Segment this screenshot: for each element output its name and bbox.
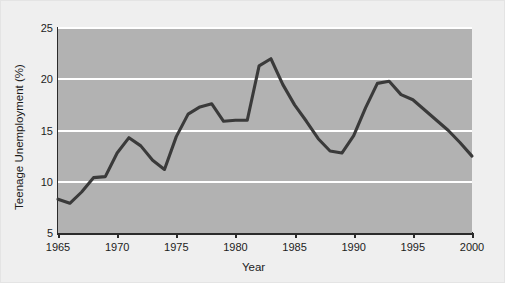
x-tick-mark-1980	[235, 233, 237, 238]
x-tick-mark-1990	[354, 233, 356, 238]
x-tick-label-1970: 1970	[105, 241, 129, 253]
x-tick-label-1975: 1975	[164, 241, 188, 253]
x-tick-label-1980: 1980	[223, 241, 247, 253]
y-tick-label-25: 25	[41, 22, 53, 34]
chart-figure: 510152025 Teenage Unemployment (%) 19651…	[0, 0, 505, 283]
x-axis-title: Year	[1, 261, 505, 273]
x-tick-label-1995: 1995	[401, 241, 425, 253]
x-tick-label-2000: 2000	[460, 241, 484, 253]
x-tick-label-1965: 1965	[46, 241, 70, 253]
plot-area	[58, 28, 472, 233]
y-tick-label-5: 5	[47, 227, 53, 239]
x-tick-label-1990: 1990	[341, 241, 365, 253]
y-tick-label-10: 10	[41, 176, 53, 188]
line-series-teenage-unemployment	[58, 28, 472, 233]
x-tick-mark-1970	[117, 233, 119, 238]
line-series-path	[58, 59, 472, 204]
x-tick-mark-1975	[176, 233, 178, 238]
x-tick-mark-2000	[472, 233, 474, 238]
y-axis-title: Teenage Unemployment (%)	[13, 37, 25, 237]
y-tick-label-15: 15	[41, 125, 53, 137]
y-tick-label-20: 20	[41, 73, 53, 85]
x-tick-mark-1995	[413, 233, 415, 238]
x-tick-mark-1965	[58, 233, 60, 238]
x-tick-label-1985: 1985	[282, 241, 306, 253]
x-tick-mark-1985	[295, 233, 297, 238]
